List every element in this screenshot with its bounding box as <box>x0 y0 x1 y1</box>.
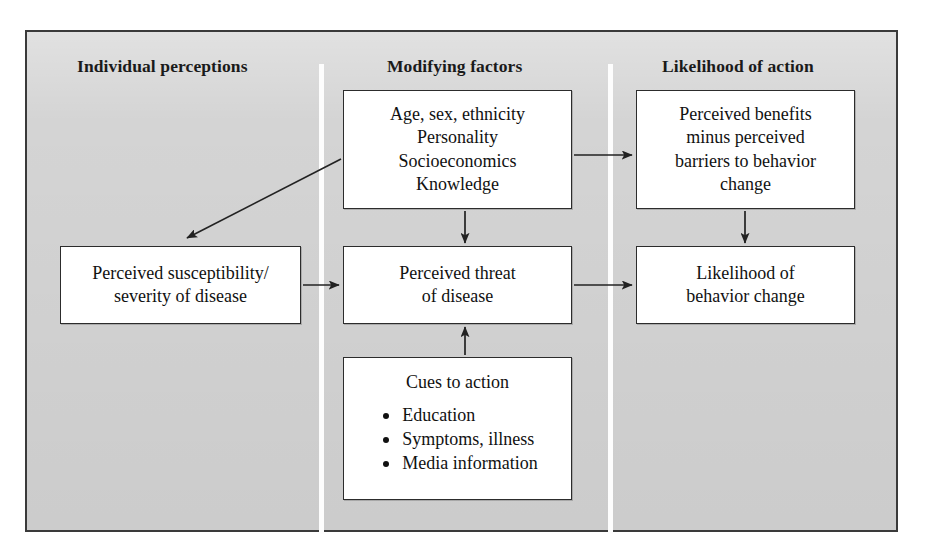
likelihood-line-2: behavior change <box>686 285 804 308</box>
modifying-line-1: Age, sex, ethnicity <box>390 103 525 126</box>
column-divider-left <box>319 64 324 534</box>
benefits-line-3: barriers to behavior <box>675 150 816 173</box>
benefits-line-1: Perceived benefits <box>679 103 811 126</box>
diagram-frame: Individual perceptions Modifying factors… <box>25 30 898 532</box>
arrow-modifying-to-susceptibility <box>187 159 341 238</box>
column-heading-likelihood-of-action: Likelihood of action <box>662 56 814 77</box>
list-item: Education <box>381 404 537 428</box>
threat-line-1: Perceived threat <box>399 262 515 285</box>
list-item: Media information <box>381 452 537 476</box>
cues-to-action-title: Cues to action <box>406 371 509 394</box>
benefits-line-4: change <box>720 173 771 196</box>
column-heading-modifying-factors: Modifying factors <box>387 56 522 77</box>
cues-to-action-box: Cues to action Education Symptoms, illne… <box>343 357 572 500</box>
column-divider-right <box>608 64 613 534</box>
modifying-line-2: Personality <box>417 126 498 149</box>
susceptibility-line-1: Perceived susceptibility/ <box>92 262 268 285</box>
modifying-factors-box: Age, sex, ethnicity Personality Socioeco… <box>343 90 572 209</box>
column-heading-individual-perceptions: Individual perceptions <box>77 56 248 77</box>
perceived-susceptibility-box: Perceived susceptibility/ severity of di… <box>60 246 301 324</box>
benefits-line-2: minus perceived <box>686 126 804 149</box>
perceived-benefits-box: Perceived benefits minus perceived barri… <box>636 90 855 209</box>
perceived-threat-box: Perceived threat of disease <box>343 246 572 324</box>
likelihood-behavior-change-box: Likelihood of behavior change <box>636 246 855 324</box>
cues-to-action-list: Education Symptoms, illness Media inform… <box>377 404 537 475</box>
susceptibility-line-2: severity of disease <box>114 285 247 308</box>
threat-line-2: of disease <box>422 285 493 308</box>
modifying-line-3: Socioeconomics <box>399 150 517 173</box>
diagram-canvas: Individual perceptions Modifying factors… <box>0 0 925 558</box>
modifying-line-4: Knowledge <box>416 173 499 196</box>
list-item: Symptoms, illness <box>381 428 537 452</box>
likelihood-line-1: Likelihood of <box>696 262 794 285</box>
